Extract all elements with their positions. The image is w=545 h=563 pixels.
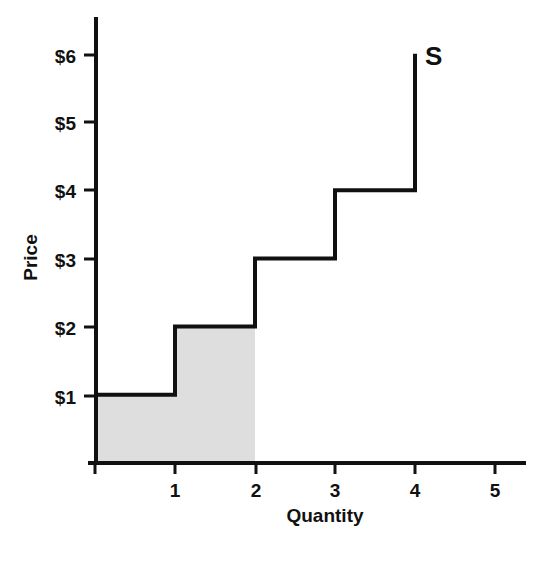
y-tick-label-4: $4 [28,182,76,201]
x-axis-title: Quantity [260,506,390,525]
y-tick-label-5: $5 [28,114,76,133]
supply-curve-chart: $1 $2 $3 $4 $5 $6 1 2 3 4 5 Price Quanti… [0,0,545,563]
y-axis-title: Price [21,222,40,294]
plot-area [0,0,545,563]
x-tick-label-4: 4 [395,481,435,500]
x-tick-label-1: 1 [155,481,195,500]
supply-curve-label: S [425,43,442,69]
y-tick-label-6: $6 [28,47,76,66]
x-tick-label-3: 3 [315,481,355,500]
y-tick-label-2: $2 [28,319,76,338]
y-tick-label-1: $1 [28,388,76,407]
x-tick-label-5: 5 [475,481,515,500]
x-tick-label-2: 2 [236,481,276,500]
